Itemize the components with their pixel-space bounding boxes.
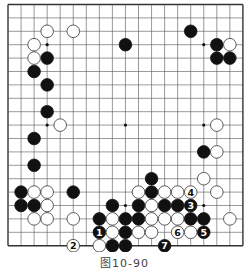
black-stone (119, 226, 132, 239)
white-stone (171, 213, 184, 226)
white-stone: 6 (171, 226, 184, 239)
white-stone (211, 119, 224, 132)
white-stone (28, 38, 41, 51)
star-point (202, 43, 205, 46)
white-stone (211, 186, 224, 199)
black-stone (28, 159, 41, 172)
black-stone (119, 239, 132, 252)
black-stone (197, 213, 210, 226)
black-stone (224, 52, 237, 65)
white-stone: 4 (184, 186, 197, 199)
black-stone (119, 38, 132, 51)
white-stone (67, 213, 80, 226)
black-stone (197, 146, 210, 159)
black-stone: 7 (158, 239, 171, 252)
black-stone (28, 65, 41, 78)
black-stone (132, 213, 145, 226)
white-stone (41, 186, 54, 199)
black-stone (41, 52, 54, 65)
black-stone (119, 213, 132, 226)
move-number-label: 6 (174, 227, 181, 238)
white-stone (132, 186, 145, 199)
star-point (124, 204, 127, 207)
white-stone (41, 213, 54, 226)
black-stone (41, 79, 54, 92)
white-stone (158, 186, 171, 199)
go-board: 3157462 (0, 0, 249, 252)
black-stone (171, 199, 184, 212)
black-stone (145, 172, 158, 185)
figure-caption: 图10-90 (0, 254, 249, 270)
white-stone: 2 (67, 239, 80, 252)
black-stone (28, 132, 41, 145)
white-stone (28, 52, 41, 65)
white-stone (41, 199, 54, 212)
black-stone (132, 199, 145, 212)
white-stone (184, 226, 197, 239)
black-stone (15, 199, 28, 212)
white-stone (145, 199, 158, 212)
move-number-label: 2 (70, 240, 77, 251)
white-stone (41, 25, 54, 38)
white-stone (93, 239, 106, 252)
move-number-label: 3 (187, 200, 194, 211)
star-point (46, 124, 49, 127)
move-number-label: 5 (200, 227, 207, 238)
star-point (202, 204, 205, 207)
white-stone (211, 146, 224, 159)
move-number-label: 4 (187, 187, 194, 198)
black-stone (106, 199, 119, 212)
white-stone (106, 213, 119, 226)
black-stone (184, 25, 197, 38)
black-stone: 1 (93, 226, 106, 239)
white-stone (224, 38, 237, 51)
white-stone (54, 119, 67, 132)
black-stone: 3 (184, 199, 197, 212)
move-number-label: 7 (161, 240, 168, 251)
black-stone (211, 52, 224, 65)
white-stone (145, 213, 158, 226)
black-stone (41, 105, 54, 118)
white-stone (197, 172, 210, 185)
black-stone: 5 (197, 226, 210, 239)
white-stone (158, 213, 171, 226)
white-stone (171, 186, 184, 199)
move-number-label: 1 (96, 227, 103, 238)
star-point (124, 124, 127, 127)
black-stone (28, 199, 41, 212)
black-stone (184, 213, 197, 226)
black-stone (67, 186, 80, 199)
black-stone (145, 186, 158, 199)
white-stone (106, 226, 119, 239)
white-stone (67, 25, 80, 38)
black-stone (106, 239, 119, 252)
black-stone (15, 186, 28, 199)
star-point (202, 124, 205, 127)
white-stone (28, 186, 41, 199)
white-stone (28, 213, 41, 226)
star-point (46, 43, 49, 46)
white-stone (224, 213, 237, 226)
black-stone (158, 199, 171, 212)
black-stone (211, 38, 224, 51)
white-stone (145, 226, 158, 239)
black-stone (93, 213, 106, 226)
white-stone (132, 226, 145, 239)
